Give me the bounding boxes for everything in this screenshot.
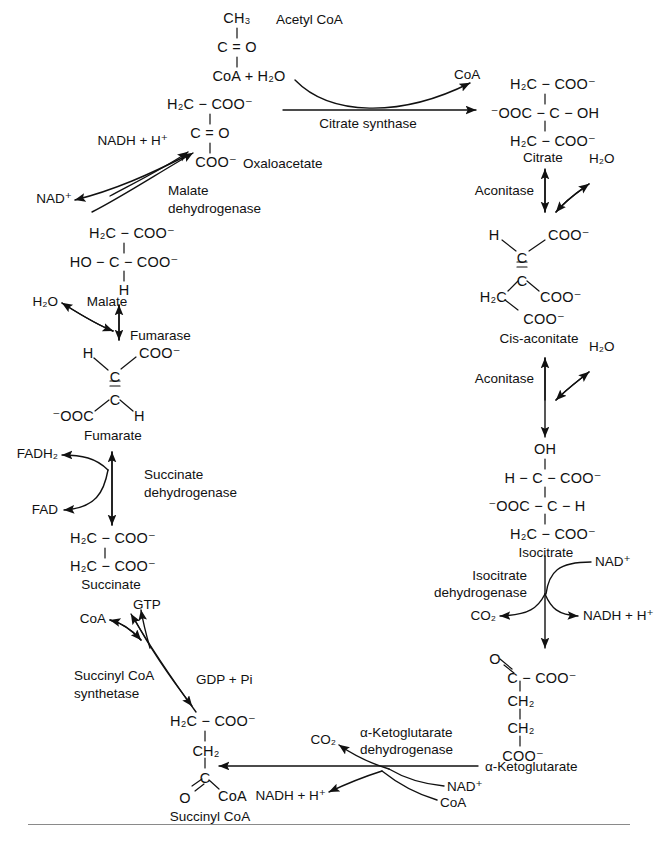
enzyme-succinate-dehydrogenase-line-2: dehydrogenase	[144, 486, 237, 500]
fumarate-c-bottom: C	[110, 393, 121, 408]
oxaloacetate-line-3: COO⁻	[195, 155, 236, 170]
cis-aconitate-c-top: C	[517, 251, 528, 266]
succinate-line-1: H₂C − COO⁻	[70, 531, 156, 546]
alpha-ketoglutarate-label: α-Ketoglutarate	[485, 760, 578, 774]
isocitrate-line-1: H − C − COO⁻	[504, 471, 601, 486]
cis-aconitate-label: Cis-aconitate	[500, 332, 579, 346]
enzyme-succinyl-coa-synthetase-line-2: synthetase	[74, 687, 139, 701]
succinyl-coa-coa: CoA	[218, 789, 247, 804]
cofactor-nad-malate: NAD⁺	[36, 192, 72, 206]
alpha-ketoglutarate-o: O	[489, 652, 500, 667]
isocitrate-line-2: ⁻OOC − C − H	[488, 499, 585, 514]
cofactor-gtp: GTP	[133, 598, 161, 612]
oxaloacetate-line-1: H₂C − COO⁻	[167, 97, 253, 112]
isocitrate-line-3: H₂C − COO⁻	[510, 527, 596, 542]
cofactor-coa-akg: CoA	[440, 796, 466, 810]
malate-line-2: HO − C − COO⁻	[70, 255, 179, 270]
enzyme-akg-dehydrogenase-line-1: α-Ketoglutarate	[360, 726, 453, 740]
acetyl-coa-line-3: CoA + H₂O	[212, 69, 285, 84]
oxaloacetate-label: Oxaloacetate	[243, 157, 323, 171]
fumarate-c-top: C	[110, 370, 121, 385]
cis-aconitate-coo-mid: COO⁻	[540, 290, 581, 305]
fumarate-label: Fumarate	[84, 429, 142, 443]
cis-aconitate-coo-bottom: COO⁻	[523, 312, 564, 327]
isocitrate-label: Isocitrate	[519, 546, 574, 560]
citrate-label: Citrate	[523, 151, 563, 165]
enzyme-akg-dehydrogenase-line-2: dehydrogenase	[360, 743, 453, 757]
enzyme-isocitrate-dehydrogenase-line-1: Isocitrate	[472, 569, 527, 583]
fumarate-ooc: ⁻OOC	[53, 409, 94, 424]
enzyme-aconitase-1: Aconitase	[475, 184, 534, 198]
cofactor-fadh2: FADH₂	[17, 447, 58, 461]
cofactor-h2o-fumarase: H₂O	[33, 295, 59, 309]
alpha-ketoglutarate-line-3: CH₂	[507, 721, 534, 736]
cofactor-fad: FAD	[32, 503, 58, 517]
alpha-ketoglutarate-line-1: C − COO⁻	[507, 671, 576, 686]
succinyl-coa-line-1: H₂C − COO⁻	[170, 714, 256, 729]
cis-aconitate-c-bottom: C	[517, 274, 528, 289]
acetyl-coa-line-2: C = O	[217, 40, 256, 55]
acetyl-coa-line-1: CH₃	[223, 11, 250, 26]
enzyme-citrate-synthase: Citrate synthase	[319, 117, 417, 131]
cofactor-nad-isocitrate: NAD⁺	[595, 555, 631, 569]
cofactor-h2o-aconitase-2: H₂O	[589, 340, 615, 354]
cofactor-nad-akg: NAD⁺	[447, 780, 483, 794]
citrate-line-2: ⁻OOC − C − OH	[491, 106, 600, 121]
krebs-cycle-diagram: CH₃ C = O CoA + H₂O Acetyl CoA H₂C − COO…	[0, 0, 657, 841]
citrate-line-3: H₂C − COO⁻	[510, 134, 596, 149]
cis-aconitate-h2c: H₂C	[480, 290, 507, 305]
enzyme-malate-dehydrogenase-line-2: dehydrogenase	[168, 202, 261, 216]
enzyme-succinyl-coa-synthetase-line-1: Succinyl CoA	[74, 669, 154, 683]
acetyl-coa-label: Acetyl CoA	[276, 13, 343, 27]
cofactor-gdp-pi: GDP + Pi	[196, 673, 252, 687]
cis-aconitate-h: H	[489, 228, 500, 243]
fumarate-h-bottom: H	[134, 409, 145, 424]
malate-label: Malate	[87, 295, 128, 309]
cofactor-h2o-aconitase-1: H₂O	[589, 152, 615, 166]
enzyme-succinate-dehydrogenase-line-1: Succinate	[144, 468, 203, 482]
succinyl-coa-line-3: C	[200, 771, 211, 786]
citrate-line-1: H₂C − COO⁻	[510, 77, 596, 92]
alpha-ketoglutarate-line-2: CH₂	[507, 694, 534, 709]
succinyl-coa-label: Succinyl CoA	[170, 810, 250, 824]
oxaloacetate-line-2: C = O	[190, 126, 229, 141]
succinate-label: Succinate	[81, 578, 140, 592]
enzyme-malate-dehydrogenase-line-1: Malate	[168, 184, 209, 198]
cofactor-coa-citrate-synthase: CoA	[454, 68, 480, 82]
enzyme-isocitrate-dehydrogenase-line-2: dehydrogenase	[434, 586, 527, 600]
enzyme-aconitase-2: Aconitase	[475, 372, 534, 386]
cis-aconitate-coo-top: COO⁻	[548, 228, 589, 243]
cofactor-nadh-isocitrate: NADH + H⁺	[583, 609, 654, 623]
malate-line-1: H₂C − COO⁻	[89, 226, 175, 241]
footer-divider-rule	[28, 824, 630, 825]
fumarate-coo-top: COO⁻	[139, 346, 180, 361]
cofactor-nadh-malate: NADH + H⁺	[97, 134, 168, 148]
fumarate-h-top: H	[83, 346, 94, 361]
isocitrate-line-0: OH	[534, 442, 556, 457]
succinate-line-2: H₂C − COO⁻	[70, 559, 156, 574]
succinyl-coa-line-2: CH₂	[192, 744, 219, 759]
cofactor-coa-succinyl: CoA	[80, 612, 106, 626]
cofactor-co2-akg: CO₂	[311, 733, 337, 747]
enzyme-fumarase: Fumarase	[130, 329, 191, 343]
succinyl-coa-o: O	[179, 791, 190, 806]
cofactor-co2-isocitrate: CO₂	[471, 609, 497, 623]
cofactor-nadh-akg: NADH + H⁺	[255, 789, 326, 803]
